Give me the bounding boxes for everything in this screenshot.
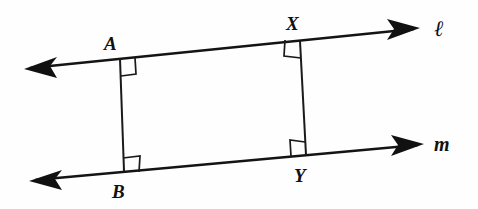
right-angle-marker-A: [121, 58, 136, 76]
line-l-label: ℓ: [434, 16, 444, 41]
line-m: [35, 145, 418, 180]
geometry-diagram-canvas: ℓ m A X B Y: [0, 0, 478, 209]
line-l-right-arrowhead: [387, 19, 420, 40]
line-m-label: m: [434, 133, 450, 155]
line-l-left-arrowhead: [24, 57, 57, 78]
line-l: [30, 29, 414, 68]
line-m-group: m: [29, 133, 450, 190]
point-label-Y: Y: [294, 165, 308, 186]
point-label-X: X: [285, 13, 300, 34]
right-angle-marker-Y: [290, 140, 305, 156]
line-l-group: ℓ: [24, 16, 444, 78]
point-label-A: A: [103, 33, 117, 54]
line-m-right-arrowhead: [391, 135, 424, 156]
line-m-left-arrowhead: [29, 170, 62, 190]
geometry-figure: ℓ m A X B Y: [0, 0, 478, 209]
point-label-B: B: [111, 181, 125, 202]
